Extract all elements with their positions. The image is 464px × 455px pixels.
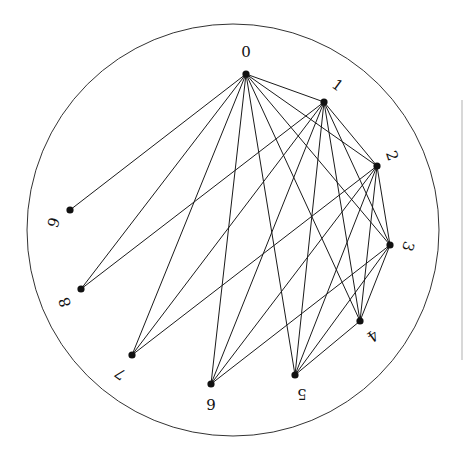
node-5 — [291, 371, 298, 378]
node-label-9: 9 — [44, 215, 64, 230]
node-3 — [386, 241, 393, 248]
node-label-3: 3 — [398, 239, 418, 254]
edge-0-6 — [211, 74, 246, 384]
edge-layer — [70, 74, 390, 384]
edge-0-5 — [246, 74, 295, 375]
node-1 — [320, 98, 327, 105]
node-label-4: 4 — [363, 326, 381, 346]
node-label-1: 1 — [328, 75, 346, 95]
node-label-2: 2 — [382, 148, 402, 163]
graph-diagram: 0123456789 — [0, 0, 464, 455]
edge-1-3 — [324, 102, 390, 245]
node-0 — [242, 70, 249, 77]
edge-2-3 — [377, 166, 390, 245]
edge-1-5 — [295, 102, 324, 375]
node-label-0: 0 — [241, 43, 251, 61]
edge-1-6 — [211, 102, 324, 384]
edge-0-4 — [246, 74, 360, 321]
node-label-8: 8 — [55, 295, 75, 310]
node-4 — [356, 317, 363, 324]
node-label-5: 5 — [297, 385, 307, 403]
node-8 — [77, 285, 84, 292]
edge-4-5 — [295, 321, 360, 375]
node-label-6: 6 — [206, 395, 216, 413]
node-2 — [373, 162, 380, 169]
edge-0-7 — [132, 74, 246, 355]
edge-3-5 — [295, 245, 390, 375]
node-label-7: 7 — [111, 364, 129, 384]
node-9 — [66, 206, 73, 213]
node-7 — [128, 351, 135, 358]
edge-0-9 — [70, 74, 246, 210]
edge-2-4 — [360, 166, 377, 321]
node-6 — [207, 380, 214, 387]
